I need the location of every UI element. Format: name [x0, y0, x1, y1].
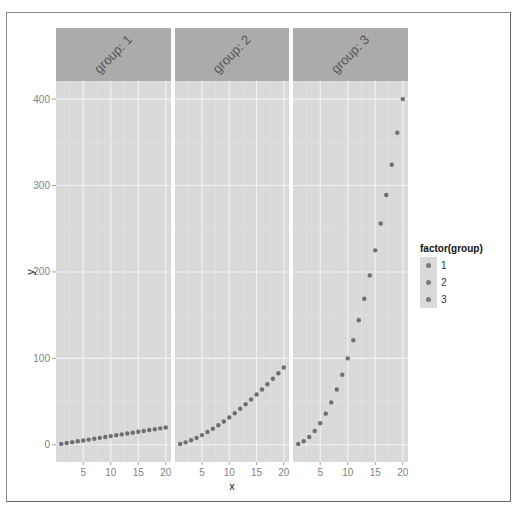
data-point — [265, 382, 269, 386]
data-point — [340, 373, 344, 377]
y-tick-label: 0 — [44, 439, 50, 450]
data-point — [87, 437, 91, 441]
data-point — [227, 415, 231, 419]
data-point — [92, 437, 96, 441]
data-point — [153, 427, 157, 431]
data-point — [276, 371, 280, 375]
x-tick-label: 15 — [370, 467, 382, 478]
data-point — [194, 436, 198, 440]
data-point — [318, 421, 322, 425]
x-tick-label: 5 — [80, 467, 86, 478]
facet-panel-3: group: 35101520 — [293, 28, 409, 478]
data-point — [59, 442, 63, 446]
x-tick-label: 10 — [342, 467, 354, 478]
facet-panel-2: group: 25101520 — [175, 28, 290, 478]
legend-label: 2 — [441, 277, 447, 288]
data-point — [70, 440, 74, 444]
data-point — [109, 434, 113, 438]
data-point — [164, 425, 168, 429]
y-tick-label: 300 — [33, 180, 50, 191]
data-point — [222, 419, 226, 423]
data-point — [390, 163, 394, 167]
data-point — [125, 431, 129, 435]
legend-item-2: 2 — [420, 274, 483, 291]
data-point — [249, 397, 253, 401]
y-tick-label: 100 — [33, 353, 50, 364]
legend-item-1: 1 — [420, 257, 483, 274]
x-tick-label: 20 — [160, 467, 172, 478]
data-point — [114, 433, 118, 437]
data-point — [271, 377, 275, 381]
data-point — [346, 356, 350, 360]
legend-label: 1 — [441, 260, 447, 271]
data-point — [329, 400, 333, 404]
x-tick-label: 10 — [224, 467, 236, 478]
data-point — [103, 435, 107, 439]
data-point — [362, 297, 366, 301]
data-point — [142, 429, 146, 433]
data-point — [120, 432, 124, 436]
data-point — [282, 365, 286, 369]
legend-point-icon — [420, 274, 437, 291]
x-tick-label: 15 — [251, 467, 263, 478]
legend-title: factor(group) — [420, 243, 483, 254]
data-point — [384, 193, 388, 197]
data-point — [379, 221, 383, 225]
x-tick-label: 20 — [397, 467, 409, 478]
data-point — [81, 438, 85, 442]
legend-point-icon — [420, 257, 437, 274]
data-point — [260, 387, 264, 391]
data-point — [216, 423, 220, 427]
x-axis-title: x — [229, 480, 235, 492]
data-point — [368, 273, 372, 277]
x-tick-label: 20 — [278, 467, 290, 478]
x-tick-label: 5 — [317, 467, 323, 478]
data-point — [65, 441, 69, 445]
data-point — [238, 407, 242, 411]
x-tick-label: 10 — [105, 467, 117, 478]
y-axis-title: y — [24, 269, 36, 275]
data-point — [205, 430, 209, 434]
data-point — [401, 97, 405, 101]
data-point — [200, 433, 204, 437]
legend-point-icon — [420, 291, 437, 308]
data-point — [158, 426, 162, 430]
data-point — [211, 427, 215, 431]
data-point — [373, 248, 377, 252]
data-point — [233, 411, 237, 415]
data-point — [147, 428, 151, 432]
data-point — [98, 436, 102, 440]
data-point — [131, 430, 135, 434]
x-tick-label: 5 — [199, 467, 205, 478]
data-point — [189, 438, 193, 442]
data-point — [254, 392, 258, 396]
data-point — [313, 429, 317, 433]
data-point — [183, 440, 187, 444]
facet-panel-1: group: 15101520 — [56, 28, 172, 478]
data-point — [324, 411, 328, 415]
data-point — [395, 131, 399, 135]
legend: factor(group) 1 2 3 — [420, 243, 483, 308]
data-point — [335, 387, 339, 391]
data-point — [296, 442, 300, 446]
data-point — [357, 318, 361, 322]
data-point — [243, 402, 247, 406]
y-tick-label: 400 — [33, 94, 50, 105]
data-point — [307, 435, 311, 439]
legend-item-3: 3 — [420, 291, 483, 308]
data-point — [136, 430, 140, 434]
data-point — [76, 439, 80, 443]
x-tick-label: 15 — [133, 467, 145, 478]
data-point — [351, 338, 355, 342]
legend-label: 3 — [441, 294, 447, 305]
data-point — [302, 439, 306, 443]
data-point — [178, 442, 182, 446]
